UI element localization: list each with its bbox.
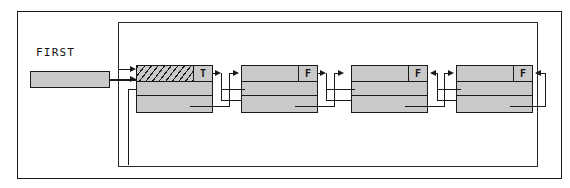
node-row-data: F	[352, 66, 427, 82]
node-row-data: F	[457, 66, 532, 82]
node-row-data: F	[242, 66, 317, 82]
node-row-bottom	[137, 96, 212, 111]
wire-node1-flag-out	[213, 73, 217, 74]
node-row-middle	[137, 82, 212, 96]
wire-node4-mid-back	[437, 89, 461, 90]
wire-node3-bottom-up	[444, 73, 445, 107]
arrow-node2-bottom-into-node3	[338, 70, 344, 76]
wire-node2-bottom-up	[334, 73, 335, 107]
wire-node3-forward-to-node4	[437, 100, 456, 101]
wire-node2-mid-back	[221, 89, 245, 90]
node-data-cell	[242, 66, 298, 81]
wire-node2-flag-out	[318, 73, 322, 74]
wire-loop-left-into-node1	[118, 69, 132, 70]
node-data-cell-hatched	[137, 66, 193, 81]
first-pointer-label: FIRST	[36, 46, 75, 59]
node-row-bottom	[242, 96, 317, 111]
wire-node3-mid-back	[326, 89, 355, 90]
wire-node1-bottom-out	[190, 106, 230, 107]
wire-node1-mid-down	[128, 89, 129, 165]
node-flag-cell: F	[298, 66, 317, 81]
node-flag-cell: T	[193, 66, 212, 81]
wire-node1-bottom-up	[229, 73, 230, 107]
node-row-middle	[457, 82, 532, 96]
node-row-middle	[352, 82, 427, 96]
node-flag-cell: F	[408, 66, 427, 81]
arrow-node3-bottom-into-node4	[448, 70, 454, 76]
wire-node1-bottom-arrowlead	[229, 73, 235, 74]
first-pointer-box	[30, 71, 110, 88]
wire-node1-forward-down	[221, 73, 222, 101]
wire-node4-bottom-out	[510, 106, 546, 107]
wire-node2-forward-down	[326, 73, 327, 101]
wire-node3-bottom-out	[405, 106, 445, 107]
linked-list-diagram: FIRST T F	[0, 0, 570, 188]
node-flag-cell: F	[513, 66, 532, 81]
node-row-bottom	[457, 96, 532, 111]
wire-node4-wrap-down	[545, 73, 546, 107]
wire-node3-forward-down	[437, 73, 438, 101]
node-row-data: T	[137, 66, 212, 82]
wire-node2-bottom-out	[295, 106, 335, 107]
node-row-bottom	[352, 96, 427, 111]
node-data-cell	[352, 66, 408, 81]
wire-node2-forward-to-node3	[326, 100, 351, 101]
wire-node1-forward-to-node2	[221, 100, 241, 101]
node-row-middle	[242, 82, 317, 96]
node-data-cell	[457, 66, 513, 81]
